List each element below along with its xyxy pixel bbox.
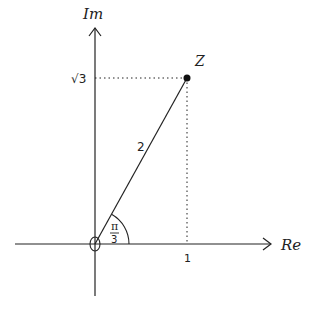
angle-denominator: 3 bbox=[111, 234, 117, 245]
point-z bbox=[184, 75, 191, 82]
modulus-vector bbox=[95, 78, 187, 244]
angle-numerator: π bbox=[111, 220, 118, 233]
x-tick-label: 1 bbox=[184, 252, 191, 265]
complex-plane-diagram: Im Re Z √3 1 2 π 3 bbox=[0, 0, 320, 311]
modulus-label: 2 bbox=[137, 140, 145, 154]
y-tick-label: √3 bbox=[71, 72, 86, 86]
point-z-label: Z bbox=[194, 53, 205, 69]
real-axis-label: Re bbox=[280, 236, 301, 254]
imaginary-axis-label: Im bbox=[82, 5, 103, 23]
